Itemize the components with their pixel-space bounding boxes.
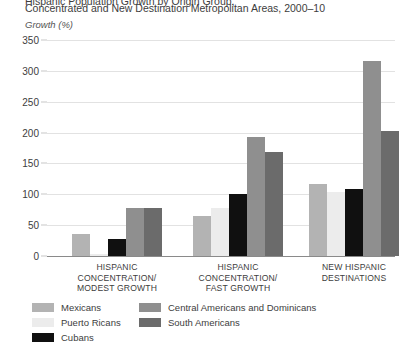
- bar: [90, 254, 108, 256]
- x-axis-category-label: HISPANICCONCENTRATION/FAST GROWTH: [178, 262, 298, 294]
- x-axis-category-label-line: MODEST GROWTH: [57, 283, 177, 294]
- bar: [363, 61, 381, 256]
- x-axis-category-label: HISPANICCONCENTRATION/MODEST GROWTH: [57, 262, 177, 294]
- y-axis-tick-label: 50: [28, 220, 39, 231]
- bar: [72, 234, 90, 256]
- axis-baseline: [47, 256, 395, 257]
- bar: [126, 208, 144, 256]
- x-axis-category-label-line: CONCENTRATION/: [57, 273, 177, 284]
- bar: [327, 192, 345, 256]
- y-axis-tick-label: 200: [22, 127, 39, 138]
- x-axis-category-label-line: CONCENTRATION/: [178, 273, 298, 284]
- legend-label: South Americans: [168, 317, 240, 328]
- bar: [345, 189, 363, 256]
- bar: [381, 131, 399, 256]
- x-axis-category-label-line: NEW HISPANIC: [294, 262, 406, 273]
- legend-item: Puerto Ricans: [32, 315, 121, 330]
- x-axis-category-label: NEW HISPANICDESTINATIONS: [294, 262, 406, 283]
- legend-swatch: [32, 333, 54, 342]
- y-axis-unit-label: Growth (%): [25, 19, 73, 30]
- plot-area: 050100150200250300350: [47, 40, 395, 256]
- x-axis-category-label-line: HISPANIC: [178, 262, 298, 273]
- legend-swatch: [139, 303, 161, 312]
- legend-label: Mexicans: [61, 302, 101, 313]
- legend-column-2: Central Americans and DominicansSouth Am…: [139, 300, 316, 330]
- bar-group: [72, 40, 162, 256]
- legend-item: Central Americans and Dominicans: [139, 300, 316, 315]
- legend-swatch: [139, 318, 161, 327]
- legend-swatch: [32, 303, 54, 312]
- legend-item: Mexicans: [32, 300, 121, 315]
- x-axis-category-label-line: FAST GROWTH: [178, 283, 298, 294]
- legend-item: South Americans: [139, 315, 316, 330]
- bar: [144, 208, 162, 256]
- y-axis-tick-label: 150: [22, 158, 39, 169]
- y-axis-tick-label: 350: [22, 35, 39, 46]
- legend-label: Puerto Ricans: [61, 317, 121, 328]
- bar: [247, 137, 265, 256]
- y-axis-tick-label: 300: [22, 65, 39, 76]
- x-axis-category-label-line: DESTINATIONS: [294, 273, 406, 284]
- bar-groups: [47, 40, 395, 256]
- bar: [309, 184, 327, 256]
- y-axis-tick-label: 0: [33, 251, 39, 262]
- y-axis-tick-label: 250: [22, 96, 39, 107]
- bar: [193, 216, 211, 256]
- bar-group: [193, 40, 283, 256]
- bar-group: [309, 40, 399, 256]
- bar: [229, 194, 247, 256]
- legend-label: Central Americans and Dominicans: [168, 302, 316, 313]
- bar: [265, 152, 283, 256]
- legend-column-1: MexicansPuerto RicansCubans: [32, 300, 121, 345]
- bar: [108, 239, 126, 256]
- y-axis-tick-label: 100: [22, 189, 39, 200]
- legend-label: Cubans: [61, 332, 94, 343]
- bar: [211, 208, 229, 256]
- legend-item: Cubans: [32, 330, 121, 345]
- x-axis-category-label-line: HISPANIC: [57, 262, 177, 273]
- legend-swatch: [32, 318, 54, 327]
- chart-title: Concentrated and New Destination Metropo…: [25, 2, 325, 15]
